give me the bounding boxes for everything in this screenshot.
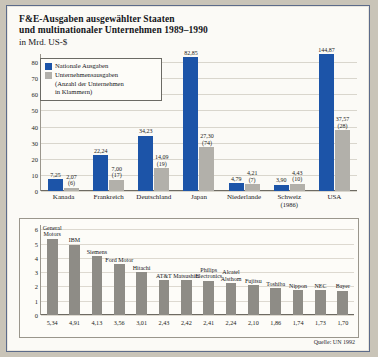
bar-value-label: 34,23: [139, 128, 153, 135]
y-axis-tick-bottom: 3: [35, 269, 38, 276]
y-axis-tick-top: 0: [35, 188, 38, 195]
bar-company: Nippon: [293, 290, 304, 315]
bar-value-label: 7,00(17): [111, 166, 122, 179]
y-axis-tick-top: 10: [32, 171, 39, 178]
bar-national: 144,87: [319, 54, 334, 191]
legend-label-national: Nationale Ausgaben: [55, 62, 108, 70]
bar-company: AT&T: [159, 280, 170, 315]
bar-company: GeneralMotors: [47, 239, 58, 315]
title-subtitle: in Mrd. US-$: [19, 37, 349, 48]
bar-group: 22,247,00(17)Frankreich: [86, 155, 131, 191]
company-value-label: 2,42: [181, 319, 192, 326]
company-value-label: 3,01: [136, 319, 147, 326]
legend-label-corporate: Unternehmensausgaben: [55, 71, 118, 79]
bar-company: IBM: [69, 245, 80, 315]
x-axis-category-label: Deutschland: [136, 193, 171, 201]
company-plot-area: 0123456GeneralMotors5,34IBM4,91Siemens4,…: [40, 225, 354, 315]
bar-corporate: 7,00(17): [109, 180, 124, 191]
bar-group: 7,252,07(6)Kanada: [41, 179, 86, 191]
screenshot-root: F&E-Ausgaben ausgewählter Staaten und mu…: [0, 0, 378, 357]
x-axis-category-label: Niederlande: [227, 193, 261, 201]
company-name-label: Fujitsu: [245, 278, 262, 285]
bar-value-label: 22,24: [94, 148, 108, 155]
y-axis-tick-top: 70: [32, 75, 39, 82]
y-axis-tick-bottom: 0: [35, 312, 38, 319]
company-value-label: 2,10: [248, 319, 259, 326]
gridline-bottom: 0: [41, 315, 354, 316]
y-axis-tick-top: 50: [32, 107, 39, 114]
bar-national: 22,24: [93, 155, 108, 191]
bar-national: 4,79: [229, 183, 244, 191]
company-value-label: 3,56: [114, 319, 125, 326]
bar-national: 7,25: [48, 179, 63, 191]
figure-card: F&E-Ausgaben ausgewählter Staaten und mu…: [6, 5, 370, 352]
axis-break-marker: [319, 58, 334, 65]
bar-company: NEC: [315, 290, 326, 315]
company-name-label: GeneralMotors: [43, 225, 62, 238]
bar-value-label: 4,43(10): [292, 170, 303, 183]
bar-corporate: 27,30(74): [199, 147, 214, 191]
bar-group: 3,904,43(10)Schweiz(1986): [267, 184, 312, 191]
bar-value-label: 2,07(6): [66, 174, 77, 187]
company-value-label: 5,34: [47, 319, 58, 326]
bar-value-label: 3,90: [276, 177, 287, 184]
bar-national: 34,23: [138, 136, 153, 191]
legend-row-national: Nationale Ausgaben: [45, 62, 157, 70]
legend-note-line-1: (Anzahl der Unternehmen: [45, 80, 157, 88]
company-name-label: AT&T: [156, 273, 172, 280]
bar-group: 82,8527,30(74)Japan: [176, 57, 221, 191]
source-note: Quelle: UN 1992: [314, 339, 355, 345]
company-value-label: 1,74: [293, 319, 304, 326]
y-axis-tick-top: 30: [32, 139, 39, 146]
company-name-label: Bayer: [336, 283, 350, 290]
bar-company: PhilipsElectronics: [203, 281, 214, 315]
bar-company: Siemens: [92, 256, 103, 315]
bar-national: 82,85: [183, 57, 198, 191]
y-axis-tick-top: 80: [32, 59, 39, 66]
company-name-label: Ford Motor: [105, 257, 133, 264]
bar-corporate: 37,57(28): [335, 130, 350, 191]
company-value-label: 1,86: [270, 319, 281, 326]
bar-company: Fujitsu: [248, 285, 259, 315]
y-axis-tick-top: 20: [32, 155, 39, 162]
legend-swatch-corporate: [45, 72, 52, 79]
x-axis-category-label: Kanada: [53, 193, 74, 201]
bar-company: AlcatelAlsthom: [226, 283, 237, 315]
company-value-label: 4,13: [91, 319, 102, 326]
bar-company: Toshiba: [270, 288, 281, 315]
x-axis-category-label: USA: [327, 193, 341, 201]
bar-value-label: 4,79: [231, 176, 242, 183]
bar-group: 34,2314,09(19)Deutschland: [131, 136, 176, 191]
company-name-label: AlcatelAlsthom: [221, 269, 242, 282]
x-axis-category-label: Japan: [191, 193, 207, 201]
company-name-label: NEC: [314, 283, 326, 290]
y-axis-tick-top: 40: [32, 123, 39, 130]
gridline-bottom: 6: [41, 229, 354, 230]
legend-swatch-national: [45, 63, 52, 70]
bar-group: 144,8737,57(28)USA: [312, 54, 357, 191]
gridline-bottom: 5: [41, 244, 354, 245]
company-value-label: 1,70: [337, 319, 348, 326]
bar-value-label: 27,30(74): [200, 133, 214, 146]
company-value-label: 2,24: [226, 319, 237, 326]
y-axis-tick-bottom: 2: [35, 283, 38, 290]
bar-value-label: 37,57(28): [336, 116, 350, 129]
x-axis-category-label: Frankreich: [94, 193, 124, 201]
x-axis-category-label: Schweiz(1986): [277, 193, 301, 209]
title-line-2: und multinationaler Unternehmen 1989–199…: [19, 25, 349, 36]
y-axis-tick-bottom: 6: [35, 226, 38, 233]
bar-company: Hitachi: [136, 272, 147, 315]
legend-row-corporate: Unternehmensausgaben: [45, 71, 157, 79]
company-name-label: Nippon: [289, 283, 307, 290]
figure-title-block: F&E-Ausgaben ausgewählter Staaten und mu…: [19, 14, 349, 48]
gridline-top: 0: [41, 191, 357, 192]
company-name-label: Hitachi: [133, 265, 151, 272]
bar-national: 3,90: [274, 185, 289, 191]
bar-value-label: 7,25: [50, 172, 61, 179]
gridline-bottom: 4: [41, 258, 354, 259]
title-line-1: F&E-Ausgaben ausgewählter Staaten: [19, 14, 349, 25]
bar-company: Matsushita: [181, 280, 192, 315]
y-axis-tick-top: 60: [32, 91, 39, 98]
gridline-bottom: 1: [41, 301, 354, 302]
bar-corporate: 4,43(10): [290, 184, 305, 191]
